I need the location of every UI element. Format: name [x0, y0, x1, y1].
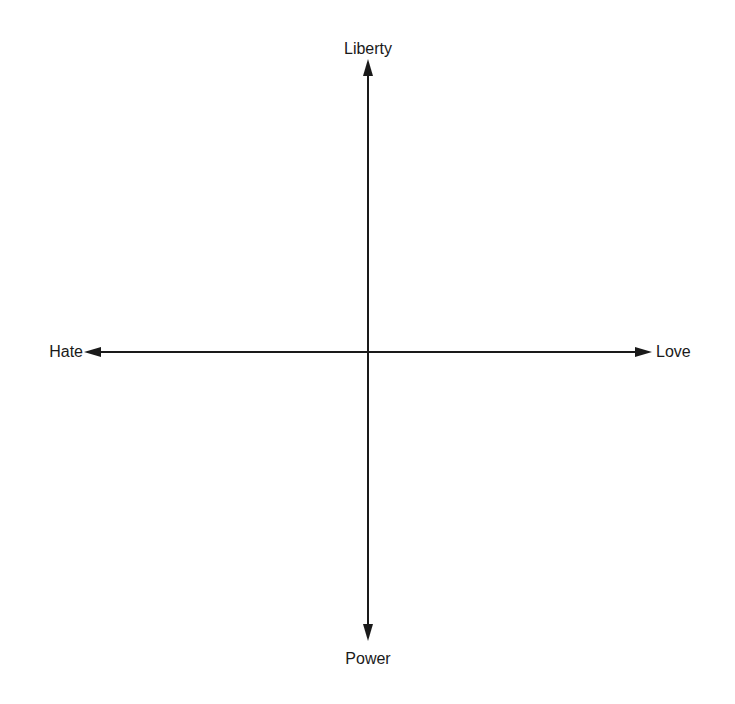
label-love: Love: [656, 343, 691, 361]
label-hate: Hate: [49, 343, 83, 361]
arrow-up-icon: [363, 59, 373, 76]
arrow-left-icon: [84, 347, 101, 357]
quadrant-diagram: Liberty Power Hate Love: [0, 0, 735, 704]
axes-graphic: [0, 0, 735, 704]
label-power: Power: [345, 650, 390, 668]
arrow-down-icon: [363, 624, 373, 641]
arrow-right-icon: [635, 347, 652, 357]
vertical-axis: [363, 59, 373, 641]
label-liberty: Liberty: [344, 40, 392, 58]
